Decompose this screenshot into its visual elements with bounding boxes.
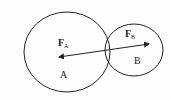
force-a-arrow xyxy=(59,51,104,58)
force-b-arrow xyxy=(104,44,149,51)
body-a-label: A xyxy=(60,69,68,80)
force-b-label: FB xyxy=(125,28,135,40)
body-b-circle xyxy=(105,24,163,76)
force-a-label: FA xyxy=(58,37,69,49)
diagram-canvas: FA FB A B xyxy=(0,0,170,100)
body-b-label: B xyxy=(134,55,141,66)
force-diagram: FA FB A B xyxy=(0,0,170,100)
